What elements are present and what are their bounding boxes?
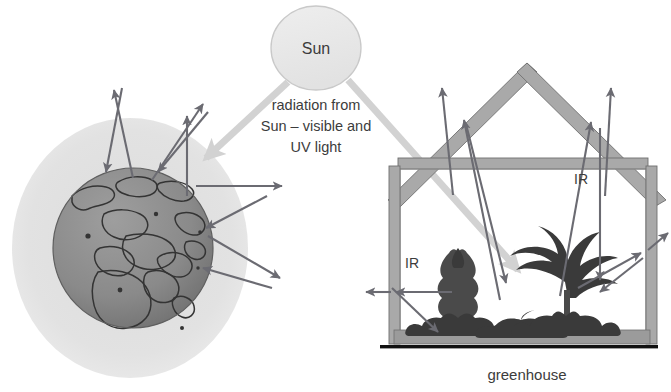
ir-label-left: IR	[405, 255, 419, 271]
solar-beams	[206, 80, 518, 270]
greenhouse-effect-diagram: Sun radiation from Sun – visible and UV …	[0, 0, 671, 392]
earth-globe	[53, 168, 213, 330]
radiation-label-line3: UV light	[291, 139, 342, 155]
greenhouse-structure	[380, 63, 666, 348]
gh-arrow-down-1	[466, 124, 506, 283]
radiation-label: radiation from Sun – visible and UV ligh…	[261, 97, 371, 155]
sun-label: Sun	[302, 40, 330, 57]
radiation-label-line2: Sun – visible and	[261, 118, 371, 134]
radiation-label-line1: radiation from	[272, 97, 361, 113]
earth-atmosphere-panel	[12, 88, 282, 378]
ceiling-beam	[398, 158, 648, 169]
greenhouse-caption: greenhouse	[487, 366, 566, 383]
ir-label-right: IR	[574, 171, 588, 187]
left-wall	[389, 166, 400, 344]
ground-line	[380, 345, 658, 348]
diagram-canvas: Sun radiation from Sun – visible and UV …	[0, 0, 671, 392]
glass-box-outline	[400, 169, 646, 341]
roof-left-beam	[388, 63, 537, 207]
right-wall	[646, 166, 657, 344]
sun-group: Sun	[271, 6, 361, 90]
roof-right-beam	[517, 63, 666, 207]
greenhouse-radiation-arrows	[366, 88, 668, 332]
